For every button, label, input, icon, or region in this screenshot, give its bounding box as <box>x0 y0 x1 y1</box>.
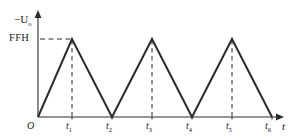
origin-label: O <box>27 121 34 131</box>
tick-label-t6: t6 <box>265 121 271 134</box>
y-axis-label-subscript: o <box>28 20 31 27</box>
x-axis <box>38 114 284 121</box>
y-axis-label: −Uo <box>14 14 31 28</box>
tick-label-t3-sub: 3 <box>149 126 152 133</box>
ffh-level-label: FFH <box>9 33 29 44</box>
tick-label-t3: t3 <box>146 121 152 134</box>
tick-label-t2: t2 <box>106 121 112 134</box>
waveform-figure: −Uo FFH O t1 t2 t3 t4 t5 t6 t <box>0 0 292 140</box>
tick-label-t1: t1 <box>66 121 72 134</box>
tick-label-t4-sub: 4 <box>189 126 192 133</box>
tick-label-t1-sub: 1 <box>69 126 72 133</box>
tick-label-t5: t5 <box>226 121 232 134</box>
y-axis-arrow-icon <box>35 10 42 18</box>
tick-label-t5-sub: 5 <box>229 126 232 133</box>
tick-label-t6-sub: 6 <box>268 126 271 133</box>
y-axis <box>35 10 42 117</box>
tick-label-t2-sub: 2 <box>109 126 112 133</box>
waveform-plot <box>0 0 292 140</box>
x-axis-label: t <box>282 121 285 132</box>
y-axis-label-main: −U <box>14 13 28 25</box>
tick-label-t4: t4 <box>186 121 192 134</box>
waveform-trace <box>38 39 272 117</box>
